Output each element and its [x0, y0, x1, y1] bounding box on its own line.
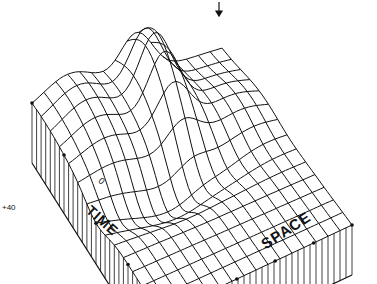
surface-mesh [0, 0, 377, 284]
peak-arrow-icon [216, 2, 222, 16]
side-annotation: +40 [2, 203, 16, 212]
surface-plot-figure: +40 0 TIME SPACE [0, 0, 377, 284]
